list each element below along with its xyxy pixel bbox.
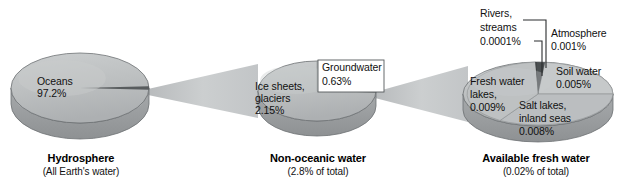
- label-rivers-value: 0.0001%: [480, 36, 521, 48]
- connector-hydrosphere-to-nonoceanic: [148, 64, 258, 118]
- label-ice-sheets-value: 2.15%: [255, 105, 284, 117]
- label-salt-lakes-line2: inland seas: [519, 113, 571, 125]
- label-fresh-lakes-line1: Fresh water: [470, 76, 524, 88]
- label-ice-sheets-line2: glaciers: [255, 93, 290, 105]
- caption-sub-hydrosphere: (All Earth's water): [0, 166, 162, 177]
- label-fresh-lakes-value: 0.009%: [470, 102, 505, 114]
- label-atmosphere-name: Atmosphere: [551, 28, 607, 40]
- label-salt-lakes-line1: Salt lakes,: [519, 100, 566, 112]
- label-groundwater-name: Groundwater: [322, 62, 382, 74]
- label-oceans-value: 97.2%: [37, 88, 66, 100]
- caption-title-hydrosphere: Hydrosphere: [0, 152, 162, 164]
- label-atmosphere-value: 0.001%: [551, 41, 586, 53]
- label-soil-water-name: Soil water: [556, 66, 601, 78]
- label-rivers-line2: streams: [480, 22, 517, 34]
- label-soil-water-value: 0.005%: [556, 79, 591, 91]
- label-ice-sheets-line1: Ice sheets,: [255, 81, 305, 93]
- label-groundwater-value: 0.63%: [322, 76, 351, 88]
- caption-sub-fresh-water: (0.02% of total): [450, 166, 622, 177]
- caption-title-non-oceanic: Non-oceanic water: [237, 152, 399, 164]
- label-rivers-line1: Rivers,: [480, 8, 512, 20]
- caption-title-fresh-water: Available fresh water: [450, 152, 622, 164]
- connector-nonoceanic-to-freshwater: [375, 66, 468, 122]
- label-fresh-lakes-line2: lakes,: [470, 89, 497, 101]
- label-oceans-name: Oceans: [37, 76, 73, 88]
- pie-chart-hydrosphere: [11, 53, 149, 139]
- label-salt-lakes-value: 0.008%: [519, 126, 554, 138]
- caption-sub-non-oceanic: (2.8% of total): [237, 166, 399, 177]
